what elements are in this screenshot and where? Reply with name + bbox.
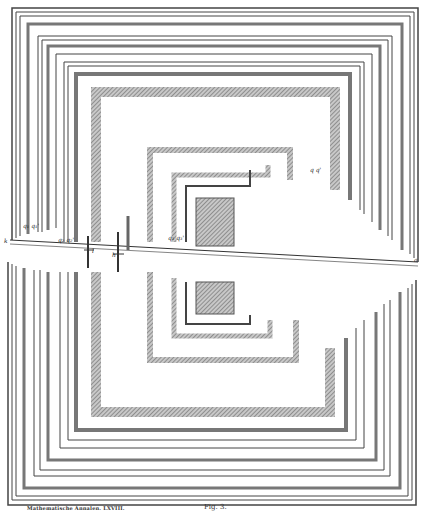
label-k: k bbox=[4, 237, 8, 244]
upper-nested-bands bbox=[12, 8, 418, 262]
label-pair-3: q₃ q₃' bbox=[168, 234, 184, 242]
label-cut-h: h bbox=[112, 251, 116, 258]
lower-nested-bands bbox=[8, 262, 416, 505]
label-pair-2: q₂ q₂' bbox=[58, 236, 74, 244]
label-a: a bbox=[414, 256, 418, 263]
label-pair-1: q₁ q₁' bbox=[23, 222, 39, 230]
figure-diagram: k a q₁ q₁' q₂ q₂' q₃ q₃' q q' l h bbox=[0, 0, 424, 521]
label-pair-4: q q' bbox=[310, 166, 322, 174]
figure-caption: Fig. 3. bbox=[204, 503, 227, 511]
journal-caption: Mathematische Annalen. LXVIII. bbox=[27, 505, 125, 511]
label-cut-l: l bbox=[92, 247, 94, 254]
